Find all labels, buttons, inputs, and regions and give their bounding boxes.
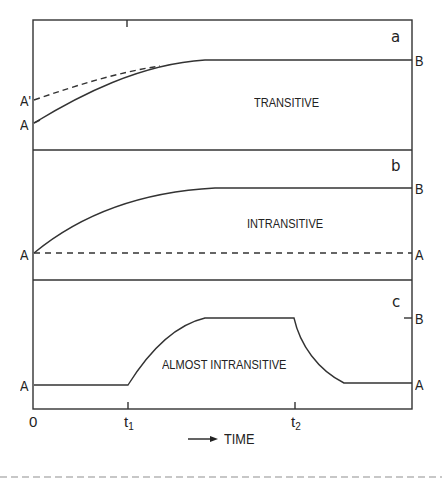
panel-a-dashed-curve bbox=[34, 66, 160, 100]
panel-b-tag: b bbox=[391, 159, 401, 174]
panel-a-tag: a bbox=[391, 30, 400, 45]
panel-b-right-label-a: A bbox=[415, 247, 424, 262]
panel-c-left-label-a: A bbox=[20, 378, 29, 393]
panel-c-right-label-a: A bbox=[415, 377, 424, 392]
panel-b-solid-curve bbox=[34, 188, 412, 253]
figure-canvas bbox=[0, 0, 442, 479]
panel-c-tag: c bbox=[392, 295, 400, 310]
panel-a-right-label-b: B bbox=[415, 53, 424, 68]
x-tick-label-0: 0 bbox=[29, 414, 37, 429]
figure-frame bbox=[33, 20, 412, 409]
x-axis-label-text: TIME bbox=[224, 430, 254, 447]
panel-a-left-label-a: A bbox=[20, 117, 29, 132]
panel-c-solid-curve bbox=[34, 318, 412, 385]
arrow-right-icon bbox=[188, 435, 218, 443]
panel-c-right-label-b: B bbox=[415, 311, 424, 326]
panel-b-left-label-a: A bbox=[20, 247, 29, 262]
panel-b-title: INTRANSITIVE bbox=[247, 217, 323, 230]
x-tick-label-t2: t2 bbox=[291, 414, 301, 432]
panel-a-title: TRANSITIVE bbox=[254, 96, 319, 109]
x-axis-label: TIME bbox=[188, 430, 260, 447]
panel-c-title: ALMOST INTRANSITIVE bbox=[162, 358, 286, 371]
x-tick-label-t1: t1 bbox=[124, 414, 134, 432]
truncated-caption bbox=[0, 474, 442, 479]
panel-a-left-label-aprime: A' bbox=[20, 93, 31, 108]
panel-b-right-label-b: B bbox=[415, 181, 424, 196]
panel-a-solid-curve bbox=[34, 60, 412, 123]
